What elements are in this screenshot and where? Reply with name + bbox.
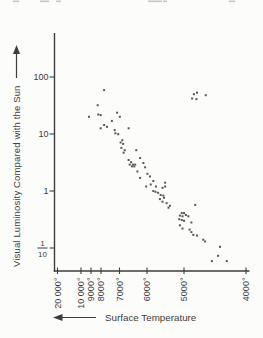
data-point (162, 195, 164, 197)
data-point (179, 215, 181, 217)
up-arrow-icon (12, 45, 21, 78)
data-point (162, 201, 164, 203)
x-tick-label: 20 000° (53, 277, 63, 309)
data-point (131, 165, 133, 167)
data-point (149, 175, 151, 177)
data-point (100, 127, 102, 129)
data-point (139, 157, 141, 159)
data-point (183, 212, 185, 214)
data-point (144, 166, 146, 168)
x-tick-label: 9000° (86, 277, 96, 301)
data-point (133, 165, 135, 167)
data-point (155, 186, 157, 188)
data-point (219, 246, 221, 248)
data-point (166, 202, 168, 204)
data-point (217, 255, 219, 257)
data-point (162, 187, 164, 189)
data-point (182, 215, 184, 217)
data-point (119, 116, 121, 118)
cropped-text-artifact (13, 1, 19, 3)
x-tick-label: 8000° (96, 277, 106, 301)
data-point (157, 192, 159, 194)
data-point (179, 224, 181, 226)
data-point (117, 133, 119, 135)
data-point (190, 222, 192, 224)
data-point (122, 143, 124, 145)
data-point (88, 116, 90, 118)
data-point (132, 164, 134, 166)
x-tick-label: 4000° (241, 277, 251, 301)
data-point (145, 186, 147, 188)
x-tick-label: 6000° (142, 277, 152, 301)
data-point (160, 194, 162, 196)
data-point (111, 120, 113, 122)
y-tick-label: 1 (43, 186, 48, 196)
data-point (103, 124, 105, 126)
data-point (130, 161, 132, 163)
data-point (114, 129, 116, 131)
data-point (116, 112, 118, 114)
data-point (196, 92, 198, 94)
data-point (97, 104, 99, 106)
data-point (114, 132, 116, 134)
scatter-chart: 20 000°10 000°9000°8000°7000°6000°5000°4… (0, 0, 263, 338)
data-point (204, 241, 206, 243)
figure-page: 20 000°10 000°9000°8000°7000°6000°5000°4… (0, 0, 263, 338)
data-point (159, 198, 161, 200)
data-point (187, 215, 189, 217)
data-point (150, 184, 152, 186)
data-point (121, 139, 123, 141)
y-tick-label-numerator: 1 (40, 239, 45, 248)
data-point (124, 149, 126, 151)
data-point (189, 229, 191, 231)
data-point (164, 186, 166, 188)
y-tick-label-denominator: 10 (38, 250, 47, 259)
data-point (181, 219, 183, 221)
data-point (146, 173, 148, 175)
data-point (100, 114, 102, 116)
data-point (211, 260, 213, 262)
data-point (194, 204, 196, 206)
data-point (120, 142, 122, 144)
data-point (193, 93, 195, 95)
data-point (178, 218, 180, 220)
data-point (120, 147, 122, 149)
x-axis-title: Surface Temperature (53, 312, 196, 323)
data-point (103, 89, 105, 91)
data-point (129, 164, 131, 166)
x-tick-label: 10 000° (76, 277, 86, 309)
data-point (152, 190, 154, 192)
data-point (202, 239, 204, 241)
data-point (181, 212, 183, 214)
data-point (135, 149, 137, 151)
data-point (106, 126, 108, 128)
x-axis-title-text: Surface Temperature (105, 312, 196, 323)
data-point (134, 164, 136, 166)
cropped-text-artifact (163, 1, 167, 3)
data-point (185, 214, 187, 216)
cropped-text-artifact (229, 1, 235, 3)
y-tick-label: 100 (33, 72, 48, 82)
cropped-text-artifact (56, 1, 61, 3)
y-tick-label: 10 (38, 129, 48, 139)
data-point (191, 98, 193, 100)
data-point (183, 220, 185, 222)
data-point (226, 260, 228, 262)
cropped-text-artifact (148, 1, 162, 3)
data-point (136, 171, 138, 173)
data-point (152, 180, 154, 182)
data-point (168, 207, 170, 209)
data-point (128, 127, 130, 129)
data-point (169, 205, 171, 207)
data-point (139, 177, 141, 179)
data-point (192, 234, 194, 236)
data-point (190, 231, 192, 233)
x-tick-label: 5000° (179, 277, 189, 301)
data-point (142, 162, 144, 164)
left-arrow-icon (53, 313, 96, 322)
data-point (123, 152, 125, 154)
data-point (164, 182, 166, 184)
data-point (163, 197, 165, 199)
data-point (128, 159, 130, 161)
y-axis-title: Visual Luminosity Compared with the Sun (10, 45, 22, 267)
